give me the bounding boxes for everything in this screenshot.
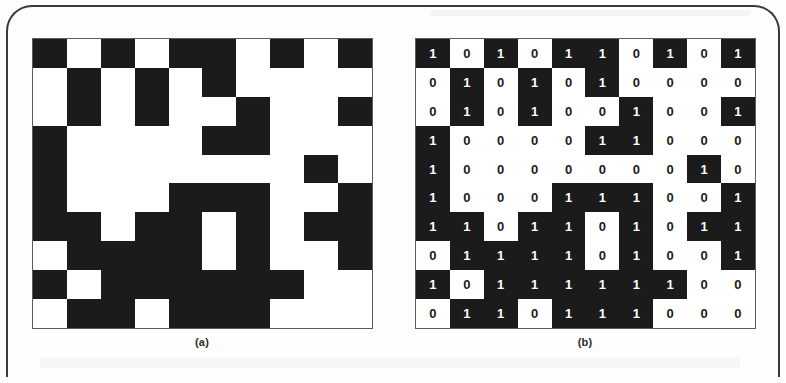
matrix-block: 0 <box>304 299 338 328</box>
matrix-block: 1 <box>33 270 67 299</box>
matrix-cell: 0 <box>518 183 552 212</box>
matrix-block: 1 <box>202 270 236 299</box>
matrix-cell: 1 <box>619 270 653 299</box>
matrix-cell: 1 <box>484 299 518 328</box>
matrix-block: 1 <box>169 241 203 270</box>
matrix-block: 0 <box>33 68 67 97</box>
matrix-cell: 1 <box>585 68 619 97</box>
matrix-cell: 1 <box>450 241 484 270</box>
matrix-cell: 0 <box>518 39 552 68</box>
matrix-cell: 0 <box>484 126 518 155</box>
matrix-block: 0 <box>270 68 304 97</box>
matrix-cell: 0 <box>687 126 721 155</box>
matrix-block: 0 <box>304 270 338 299</box>
matrix-block: 1 <box>135 241 169 270</box>
matrix-block: 1 <box>202 126 236 155</box>
matrix-cell: 0 <box>484 68 518 97</box>
matrix-block: 1 <box>270 270 304 299</box>
matrix-block: 0 <box>338 68 372 97</box>
matrix-cell: 1 <box>552 39 586 68</box>
matrix-block: 1 <box>67 241 101 270</box>
matrix-cell: 0 <box>619 68 653 97</box>
matrix-block: 0 <box>169 97 203 126</box>
matrix-block: 0 <box>338 155 372 184</box>
matrix-block: 0 <box>135 39 169 68</box>
matrix-cell: 0 <box>687 270 721 299</box>
matrix-cell: 0 <box>552 155 586 184</box>
matrix-block: 0 <box>33 97 67 126</box>
matrix-cell: 1 <box>585 270 619 299</box>
matrix-cell: 0 <box>585 97 619 126</box>
matrix-block: 1 <box>33 39 67 68</box>
matrix-cell: 0 <box>653 155 687 184</box>
matrix-cell: 0 <box>484 97 518 126</box>
matrix-block: 0 <box>236 39 270 68</box>
matrix-cell: 0 <box>552 97 586 126</box>
matrix-block: 1 <box>67 68 101 97</box>
matrix-block: 1 <box>304 155 338 184</box>
matrix-block: 0 <box>67 183 101 212</box>
matrix-cell: 0 <box>450 155 484 184</box>
matrix-cell: 1 <box>653 270 687 299</box>
matrix-block: 0 <box>101 183 135 212</box>
figure-root: 1010110101010101000001010010011000011000… <box>0 0 786 383</box>
matrix-cell: 0 <box>653 241 687 270</box>
matrix-block: 1 <box>338 97 372 126</box>
matrix-cell: 1 <box>687 212 721 241</box>
matrix-cell: 0 <box>518 299 552 328</box>
matrix-cell: 0 <box>687 299 721 328</box>
matrix-cell: 1 <box>585 39 619 68</box>
matrix-block: 1 <box>338 183 372 212</box>
matrix-cell: 0 <box>687 39 721 68</box>
matrix-block: 1 <box>338 212 372 241</box>
matrix-cell: 0 <box>619 39 653 68</box>
matrix-block: 0 <box>202 155 236 184</box>
matrix-block: 0 <box>169 68 203 97</box>
matrix-cell: 1 <box>416 126 450 155</box>
matrix-block: 0 <box>33 241 67 270</box>
panel-b-caption: (b) <box>415 336 755 348</box>
matrix-block: 0 <box>135 183 169 212</box>
matrix-block: 1 <box>67 97 101 126</box>
matrix-cell: 0 <box>721 155 755 184</box>
matrix-block: 0 <box>135 299 169 328</box>
matrix-block: 0 <box>67 155 101 184</box>
matrix-cell: 1 <box>450 68 484 97</box>
matrix-block: 1 <box>236 270 270 299</box>
matrix-cell: 1 <box>619 97 653 126</box>
matrix-cell: 0 <box>484 183 518 212</box>
matrix-cell: 1 <box>518 68 552 97</box>
matrix-cell: 0 <box>518 155 552 184</box>
matrix-block: 1 <box>202 183 236 212</box>
matrix-cell: 0 <box>585 155 619 184</box>
matrix-block: 1 <box>304 212 338 241</box>
matrix-cell: 0 <box>653 212 687 241</box>
matrix-cell: 1 <box>721 97 755 126</box>
matrix-cell: 0 <box>687 97 721 126</box>
matrix-block: 0 <box>202 212 236 241</box>
matrix-block: 1 <box>236 183 270 212</box>
matrix-block: 1 <box>202 299 236 328</box>
matrix-block: 1 <box>236 299 270 328</box>
matrix-block: 1 <box>33 212 67 241</box>
matrix-block: 0 <box>101 212 135 241</box>
matrix-block: 0 <box>135 155 169 184</box>
matrix-cell: 0 <box>416 299 450 328</box>
matrix-block: 1 <box>67 212 101 241</box>
matrix-block: 0 <box>304 68 338 97</box>
matrix-block: 0 <box>270 212 304 241</box>
binary-matrix-digits: 1010110101010101000001010010011000011000… <box>415 38 756 329</box>
matrix-block: 0 <box>67 39 101 68</box>
binary-matrix-blocks: 1010110101010101000001010010011000011000… <box>32 38 373 329</box>
matrix-block: 1 <box>101 39 135 68</box>
matrix-cell: 1 <box>416 270 450 299</box>
matrix-cell: 1 <box>484 270 518 299</box>
matrix-block: 0 <box>304 39 338 68</box>
matrix-block: 1 <box>236 212 270 241</box>
matrix-cell: 1 <box>585 183 619 212</box>
matrix-block: 1 <box>101 299 135 328</box>
matrix-cell: 0 <box>721 270 755 299</box>
panel-b: 1010110101010101000001010010011000011000… <box>415 38 756 329</box>
matrix-block: 0 <box>202 241 236 270</box>
matrix-cell: 1 <box>518 241 552 270</box>
